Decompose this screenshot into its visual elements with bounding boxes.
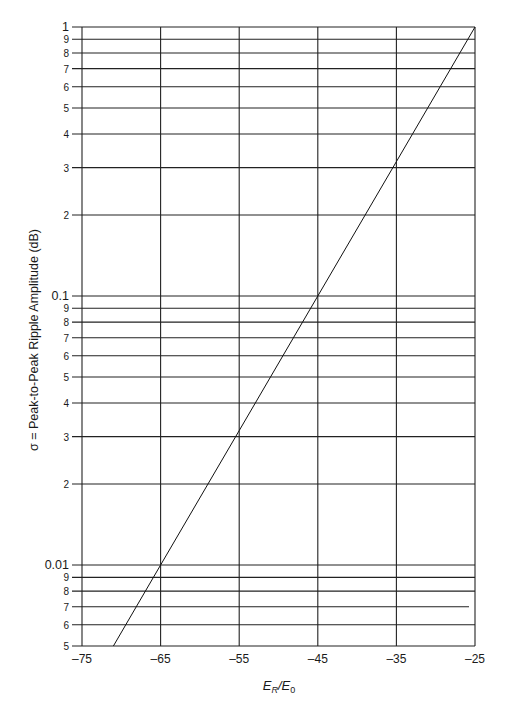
x-label-e: E bbox=[263, 678, 272, 693]
ripple-curve bbox=[113, 27, 475, 646]
y-tick-label: 2 bbox=[63, 479, 69, 490]
y-tick-label: 6 bbox=[63, 351, 69, 362]
x-label-sub-0: 0 bbox=[290, 685, 295, 695]
y-tick-label: 2 bbox=[63, 210, 69, 221]
y-tick-label: 5 bbox=[63, 641, 69, 652]
y-tick-label: 0.01 bbox=[45, 558, 69, 572]
x-tick-label: –55 bbox=[229, 652, 249, 666]
y-axis-label: σ = Peak-to-Peak Ripple Amplitude (dB) bbox=[27, 229, 41, 451]
y-tick-label: 8 bbox=[63, 317, 69, 328]
y-tick-label: 9 bbox=[63, 34, 69, 45]
x-axis-label: ER/E0 bbox=[263, 678, 295, 695]
x-tick-label: –35 bbox=[386, 652, 406, 666]
horizontal-gridlines bbox=[72, 27, 475, 646]
x-tick-label: –25 bbox=[465, 652, 485, 666]
x-tick-label: –65 bbox=[151, 652, 171, 666]
y-tick-label: 1 bbox=[62, 20, 69, 34]
y-tick-label: 0.1 bbox=[52, 289, 69, 303]
ripple-amplitude-chart: 567890.01234567890.1234567891 –75–65–55–… bbox=[0, 0, 506, 709]
y-tick-label: 6 bbox=[63, 620, 69, 631]
x-label-slash-e: /E bbox=[277, 678, 291, 693]
y-tick-label: 4 bbox=[63, 129, 69, 140]
y-tick-label: 7 bbox=[63, 602, 69, 613]
y-tick-label: 5 bbox=[63, 103, 69, 114]
y-tick-label: 5 bbox=[63, 372, 69, 383]
y-tick-label: 4 bbox=[63, 398, 69, 409]
x-tick-label: –45 bbox=[308, 652, 328, 666]
y-tick-label: 8 bbox=[63, 48, 69, 59]
y-tick-label: 7 bbox=[63, 64, 69, 75]
y-tick-label: 3 bbox=[63, 432, 69, 443]
y-tick-labels: 567890.01234567890.1234567891 bbox=[45, 20, 70, 652]
x-tick-label: –75 bbox=[72, 652, 92, 666]
y-tick-label: 6 bbox=[63, 82, 69, 93]
y-tick-label: 9 bbox=[63, 572, 69, 583]
vertical-gridlines bbox=[82, 27, 475, 646]
y-tick-label: 7 bbox=[63, 333, 69, 344]
data-series bbox=[113, 27, 475, 646]
x-tick-labels: –75–65–55–45–35–25 bbox=[72, 652, 485, 666]
y-tick-label: 9 bbox=[63, 303, 69, 314]
y-tick-label: 8 bbox=[63, 586, 69, 597]
y-tick-label: 3 bbox=[63, 163, 69, 174]
